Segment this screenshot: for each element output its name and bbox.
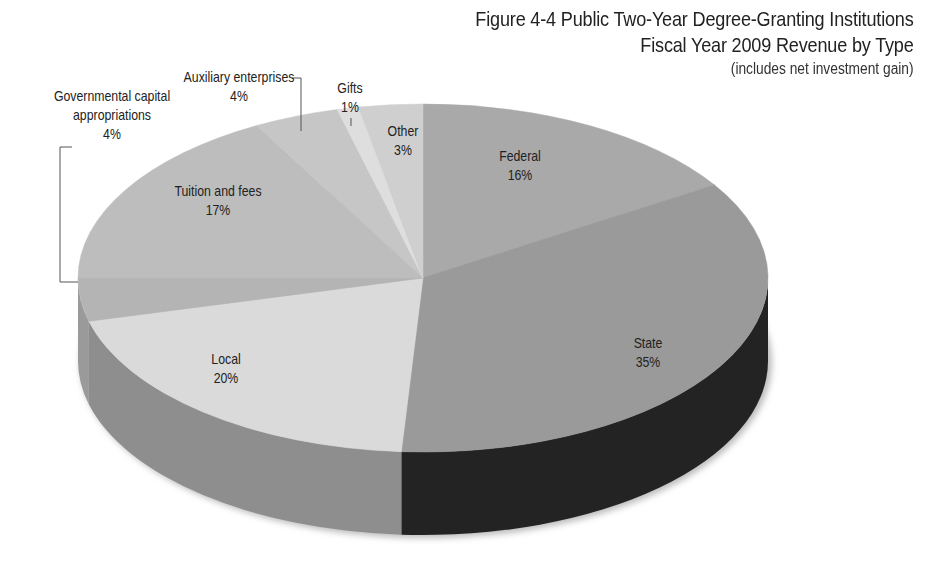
label-federal-pct: 16% — [499, 165, 541, 184]
label-auxiliary-name: Auxiliary enterprises — [184, 67, 295, 86]
label-local-pct: 20% — [211, 368, 240, 387]
label-state: State 35% — [634, 333, 663, 371]
label-local-name: Local — [211, 349, 240, 368]
label-other-name: Other — [388, 121, 419, 140]
label-other: Other 3% — [388, 121, 419, 159]
label-gov-capital-name-1: Governmental capital — [54, 86, 170, 105]
label-federal-name: Federal — [499, 146, 541, 165]
label-gov-capital-name-2: appropriations — [54, 105, 170, 124]
gov-capital-leader-line — [60, 147, 78, 282]
label-tuition: Tuition and fees 17% — [174, 181, 261, 219]
label-gov-capital-pct: 4% — [54, 124, 170, 143]
label-gifts-pct: 1% — [337, 97, 362, 116]
label-gifts: Gifts 1% — [337, 78, 362, 116]
label-auxiliary: Auxiliary enterprises 4% — [184, 67, 295, 105]
label-tuition-pct: 17% — [174, 200, 261, 219]
label-other-pct: 3% — [388, 140, 419, 159]
pie-top — [78, 104, 768, 452]
label-auxiliary-pct: 4% — [184, 86, 295, 105]
label-tuition-name: Tuition and fees — [174, 181, 261, 200]
label-gov-capital: Governmental capital appropriations 4% — [54, 86, 170, 143]
label-federal: Federal 16% — [499, 146, 541, 184]
label-gifts-name: Gifts — [337, 78, 362, 97]
label-state-pct: 35% — [634, 352, 663, 371]
label-state-name: State — [634, 333, 663, 352]
label-local: Local 20% — [211, 349, 240, 387]
